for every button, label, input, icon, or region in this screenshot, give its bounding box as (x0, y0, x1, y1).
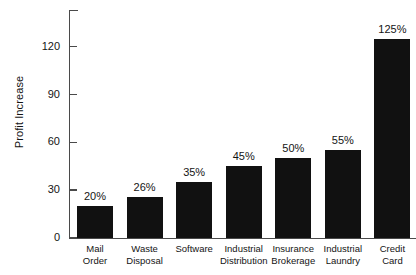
bar-chart: Profit Increase 0306090120 20%26%35%45%5… (0, 0, 416, 275)
bar[interactable] (325, 150, 361, 238)
y-axis-tick-label: 30 (0, 184, 60, 195)
bar-group: 55% (325, 10, 361, 238)
bar[interactable] (127, 197, 163, 238)
bar[interactable] (77, 206, 113, 238)
bar-value-label: 55% (332, 135, 354, 146)
plot-area: 20%26%35%45%50%55%125% (69, 10, 416, 238)
category-label-line: Credit (352, 243, 416, 255)
bar-value-label: 50% (282, 143, 304, 154)
bar-group: 45% (226, 10, 262, 238)
bar-value-label: 35% (183, 167, 205, 178)
bar-value-label: 45% (233, 151, 255, 162)
x-axis-line (69, 238, 416, 239)
bar[interactable] (226, 166, 262, 238)
bar[interactable] (275, 158, 311, 238)
bar-group: 50% (275, 10, 311, 238)
bar-value-label: 20% (84, 191, 106, 202)
bar-group: 35% (176, 10, 212, 238)
y-axis-tick-label: 0 (0, 232, 60, 243)
y-axis-title: Profit Increase (13, 52, 25, 172)
x-axis-category-label: CreditCard (352, 243, 416, 266)
category-label-line: Disposal (105, 255, 185, 267)
y-axis-tick-label: 90 (0, 89, 60, 100)
bar-group: 26% (127, 10, 163, 238)
y-axis-tick-label: 60 (0, 136, 60, 147)
bar[interactable] (176, 182, 212, 238)
bar-group: 125% (374, 10, 410, 238)
y-axis-tick-label: 120 (0, 41, 60, 52)
bar[interactable] (374, 39, 410, 238)
bar-value-label: 125% (378, 24, 406, 35)
bar-value-label: 26% (134, 182, 156, 193)
bar-group: 20% (77, 10, 113, 238)
category-label-line: Card (352, 255, 416, 267)
